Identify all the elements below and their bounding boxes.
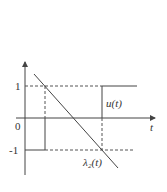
origin-label: 0 xyxy=(15,120,21,132)
t-axis-label: t xyxy=(150,121,154,133)
y-tick-1: 1 xyxy=(15,80,21,92)
lambda2-curve xyxy=(34,74,118,168)
y-tick-minus1: -1 xyxy=(9,144,18,156)
lambda2-label: λ₂(t) xyxy=(82,156,102,169)
diagram: 1 0 -1 t u(t) λ₂(t) xyxy=(0,0,167,192)
u-curve xyxy=(25,118,45,150)
u-label: u(t) xyxy=(106,97,122,110)
